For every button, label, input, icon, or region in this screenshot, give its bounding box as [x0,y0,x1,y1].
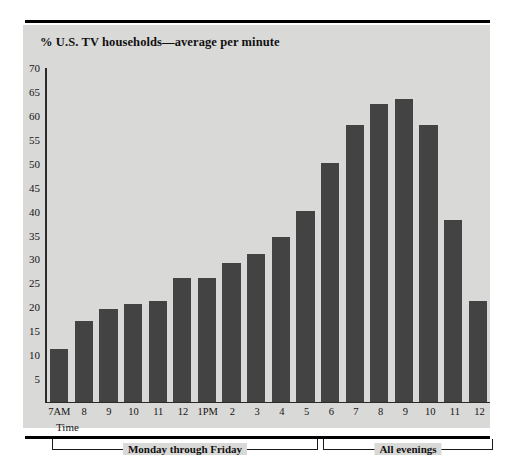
bar [75,321,93,402]
bar [173,278,191,402]
x-tick-label: 11 [443,406,468,417]
bar-slot [170,68,195,402]
x-tick-label: 4 [269,406,294,417]
bracket-weekdays: Monday through Friday [52,439,318,450]
x-tick-label: 5 [294,406,319,417]
bar [198,278,216,402]
x-tick-label: 12 [467,406,492,417]
bar-slot [441,68,466,402]
y-tick-label: 55 [29,134,40,146]
x-tick-label: 10 [121,406,146,417]
bracket-weekdays-label: Monday through Friday [123,443,247,455]
y-tick-label: 35 [29,230,40,242]
x-tick-label: 7 [344,406,369,417]
x-tick-label: 11 [146,406,171,417]
y-tick-label: 50 [29,158,40,170]
bar-slot [416,68,441,402]
x-tick-label: 12 [171,406,196,417]
y-tick-label: 10 [29,349,40,361]
bar-slot [318,68,343,402]
bar [149,301,167,401]
x-tick-label: 8 [368,406,393,417]
y-tick-label: 30 [29,253,40,265]
bar-slot [392,68,417,402]
x-tick-label: 3 [245,406,270,417]
plot-area: 510152025303540455055606570 [45,68,490,403]
x-tick-label: 6 [319,406,344,417]
time-axis-label: Time [56,421,79,433]
bar-slot [465,68,490,402]
top-rule [25,20,490,23]
y-tick-label: 40 [29,206,40,218]
bar [50,349,68,401]
bar [99,309,117,402]
bar-slot [244,68,269,402]
x-tick-label: 7AM [47,406,72,417]
y-tick-label: 25 [29,277,40,289]
bar-slot [72,68,97,402]
y-tick-label: 15 [29,325,40,337]
bar-slot [195,68,220,402]
bar [370,104,388,402]
x-axis-ticks: 7AM891011121PM23456789101112 [47,406,492,417]
bar-series [47,68,490,402]
bar-slot [293,68,318,402]
bar [346,125,364,401]
bar [124,304,142,402]
bar [321,163,339,401]
bar-slot [96,68,121,402]
figure-panel: % U.S. TV households—average per minute … [23,25,490,428]
bar [419,125,437,401]
bar-slot [342,68,367,402]
bottom-rule [25,436,490,439]
bar-slot [121,68,146,402]
y-tick-label: 65 [29,86,40,98]
bar-slot [47,68,72,402]
x-tick-label: 10 [418,406,443,417]
bar [247,254,265,402]
y-tick-label: 20 [29,301,40,313]
bar [395,99,413,402]
x-tick-label: 8 [72,406,97,417]
bar-slot [268,68,293,402]
bracket-evenings-label: All evenings [374,443,441,455]
bracket-evenings: All evenings [323,439,493,450]
bar [444,220,462,401]
x-axis-line [45,402,490,404]
bar-slot [367,68,392,402]
bar [222,263,240,401]
bar-slot [145,68,170,402]
y-tick-label: 60 [29,110,40,122]
y-tick-label: 5 [35,373,41,385]
bar [296,211,314,402]
bar-slot [219,68,244,402]
bar [469,301,487,401]
page-title: % U.S. TV households—average per minute [40,35,280,50]
x-tick-label: 1PM [195,406,220,417]
x-tick-label: 9 [96,406,121,417]
bar [272,237,290,401]
x-tick-label: 2 [220,406,245,417]
y-tick-label: 45 [29,182,40,194]
x-tick-label: 9 [393,406,418,417]
y-tick-label: 70 [29,62,40,74]
